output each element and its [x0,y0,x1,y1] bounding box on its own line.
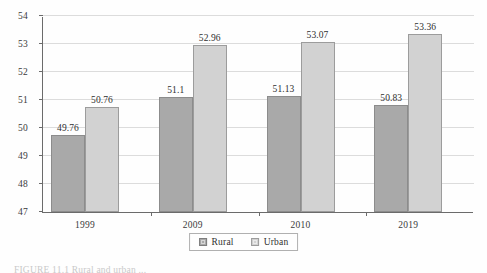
chart-plot-area: 4748495051525354 49.7650.7651.152.9651.1… [42,17,473,213]
bar-rural-2019: 50.83 [374,105,408,212]
bar-urban-2019: 53.36 [408,34,442,212]
gridline [43,15,474,16]
y-axis-tick [39,43,43,44]
bar-rural-2009: 51.1 [159,97,193,212]
bar-value-label: 49.76 [57,123,79,133]
y-axis-label: 54 [18,11,28,21]
x-axis-tick [151,212,152,216]
bar-value-label: 51.13 [273,84,295,94]
x-axis-label-2010: 2010 [290,220,310,230]
legend-entry-rural[interactable]: Rural [199,237,234,247]
figure-caption: FIGURE 11.1 Rural and urban ... [14,265,434,273]
legend-swatch-icon [199,238,207,246]
bar-rural-2010: 51.13 [267,96,301,212]
y-axis-tick [39,99,43,100]
legend-label: Urban [264,237,289,247]
bar-rural-1999: 49.76 [51,135,85,212]
y-axis-tick [39,183,43,184]
x-axis-tick [366,212,367,216]
legend-swatch-icon [251,238,259,246]
legend-label: Rural [212,237,234,247]
y-axis-tick [39,71,43,72]
bar-value-label: 51.1 [167,85,184,95]
y-axis-label: 48 [18,179,28,189]
y-axis-tick [39,155,43,156]
y-axis-label: 47 [18,207,28,217]
bar-value-label: 53.36 [414,22,436,32]
bar-urban-1999: 50.76 [85,107,119,212]
x-axis-tick [259,212,260,216]
y-axis-label: 50 [18,123,28,133]
x-axis-label-1999: 1999 [75,220,95,230]
bar-urban-2010: 53.07 [301,42,335,212]
chart-legend: RuralUrban [189,233,299,251]
y-axis-tick [39,15,43,16]
bar-value-label: 50.76 [91,95,113,105]
figure-container: 4748495051525354 49.7650.7651.152.9651.1… [0,0,487,273]
x-axis-label-2019: 2019 [398,220,418,230]
legend-entry-urban[interactable]: Urban [251,237,289,247]
y-axis-tick [39,127,43,128]
bar-value-label: 53.07 [307,30,329,40]
y-axis-tick [39,211,43,212]
y-axis-label: 52 [18,67,28,77]
y-axis-label: 49 [18,151,28,161]
y-axis-label: 53 [18,39,28,49]
x-axis-label-2009: 2009 [183,220,203,230]
y-axis-label: 51 [18,95,28,105]
bar-value-label: 50.83 [380,93,402,103]
bar-urban-2009: 52.96 [193,45,227,212]
bar-value-label: 52.96 [199,33,221,43]
